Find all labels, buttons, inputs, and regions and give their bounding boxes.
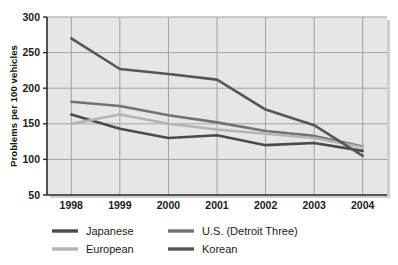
y-tick-label: 100: [22, 153, 40, 165]
x-tick-label: 2003: [302, 199, 326, 211]
y-tick-label: 150: [22, 117, 40, 129]
line-chart: 50100150200250300 1998199920002001200220…: [0, 0, 398, 265]
x-tick-label: 2004: [351, 199, 375, 211]
y-axis-label-text: Problems per 100 vehicles: [8, 45, 19, 167]
legend-label: U.S. (Detroit Three): [202, 225, 298, 237]
y-tick-label: 200: [22, 82, 40, 94]
y-tick-label: 250: [22, 46, 40, 58]
chart-canvas: 50100150200250300 1998199920002001200220…: [0, 0, 398, 265]
y-tick-group: 50100150200250300: [22, 11, 47, 201]
y-tick-label: 300: [22, 11, 40, 23]
legend-label: European: [86, 243, 134, 255]
x-tick-label: 1999: [108, 199, 132, 211]
x-tick-label: 2002: [254, 199, 278, 211]
x-tick-label: 2001: [205, 199, 229, 211]
y-axis-label: Problems per 100 vehicles: [8, 45, 19, 167]
y-tick-label: 50: [28, 189, 40, 201]
chart-legend: JapaneseU.S. (Detroit Three)EuropeanKore…: [52, 225, 298, 255]
legend-label: Korean: [202, 243, 237, 255]
plot-background-group: [47, 17, 390, 198]
x-tick-label: 1998: [60, 199, 84, 211]
x-tick-group: 1998199920002001200220032004: [60, 199, 375, 211]
x-tick-label: 2000: [157, 199, 181, 211]
legend-label: Japanese: [86, 225, 134, 237]
chart-figure: 50100150200250300 1998199920002001200220…: [0, 0, 398, 265]
